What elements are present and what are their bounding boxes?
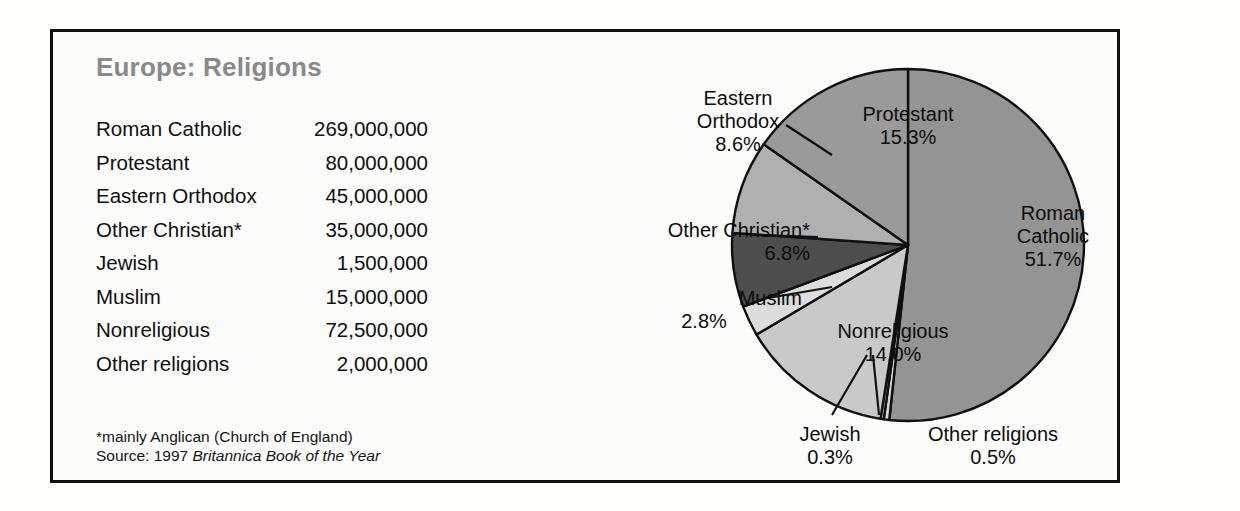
table-cell-population: 269,000,000 [290,112,428,146]
figure-root: Europe: Religions Roman Catholic269,000,… [0,0,1240,511]
label-text: Nonreligious [837,320,948,342]
slice-label-eastern-orthodox: Eastern Orthodox 8.6% [668,87,808,156]
label-percent: 2.8% [622,310,802,333]
table-cell-religion: Protestant [96,146,290,180]
religions-data-table: Roman Catholic269,000,000Protestant80,00… [96,112,428,380]
label-percent: 51.7% [978,248,1128,271]
table-row: Jewish1,500,000 [96,246,428,280]
table-row: Muslim15,000,000 [96,280,428,314]
label-text: Jewish [799,423,860,445]
table-row: Protestant80,000,000 [96,146,428,180]
label-percent: 15.3% [838,126,978,149]
table-row: Nonreligious72,500,000 [96,313,428,347]
table-cell-religion: Jewish [96,246,290,280]
table-cell-religion: Eastern Orthodox [96,179,290,213]
source-prefix: Source: 1997 [96,447,193,464]
label-text: Other Christian* [668,219,810,241]
label-text: Muslim [739,287,802,309]
table-cell-religion: Other religions [96,347,290,381]
page-title: Europe: Religions [96,52,322,83]
table-cell-population: 15,000,000 [290,280,428,314]
pie-chart: Eastern Orthodox 8.6% Protestant 15.3% R… [660,55,1160,475]
label-percent: 0.3% [770,446,890,469]
slice-label-muslim: Muslim 2.8% [622,287,802,333]
table: Roman Catholic269,000,000Protestant80,00… [96,112,428,380]
label-percent: 6.8% [595,242,810,265]
slice-label-roman-catholic: Roman Catholic 51.7% [978,202,1128,271]
label-percent: 8.6% [668,133,808,156]
label-text-line1: Eastern [704,87,773,109]
slice-label-protestant: Protestant 15.3% [838,103,978,149]
table-cell-population: 80,000,000 [290,146,428,180]
slice-label-jewish: Jewish 0.3% [770,423,890,469]
label-percent: 14.0% [808,343,978,366]
table-cell-population: 2,000,000 [290,347,428,381]
table-row: Other Christian*35,000,000 [96,213,428,247]
table-cell-population: 1,500,000 [290,246,428,280]
slice-label-nonreligious: Nonreligious 14.0% [808,320,978,366]
table-cell-population: 72,500,000 [290,313,428,347]
table-cell-religion: Muslim [96,280,290,314]
table-row: Eastern Orthodox45,000,000 [96,179,428,213]
footnotes: *mainly Anglican (Church of England) Sou… [96,427,380,465]
label-text-line1: Roman [1021,202,1085,224]
table-row: Other religions2,000,000 [96,347,428,381]
label-percent: 0.5% [888,446,1098,469]
label-text-line2: Catholic [1017,225,1089,247]
slice-label-other-religions: Other religions 0.5% [888,423,1098,469]
slice-label-other-christian: Other Christian* 6.8% [595,219,810,265]
table-cell-religion: Other Christian* [96,213,290,247]
table-cell-religion: Roman Catholic [96,112,290,146]
label-text: Other religions [928,423,1058,445]
table-cell-religion: Nonreligious [96,313,290,347]
source-title: Britannica Book of the Year [193,447,381,464]
label-text: Protestant [862,103,953,125]
table-row: Roman Catholic269,000,000 [96,112,428,146]
label-text-line2: Orthodox [697,110,779,132]
footnote-source: Source: 1997 Britannica Book of the Year [96,446,380,465]
footnote-asterisk: *mainly Anglican (Church of England) [96,427,380,446]
table-cell-population: 45,000,000 [290,179,428,213]
table-cell-population: 35,000,000 [290,213,428,247]
